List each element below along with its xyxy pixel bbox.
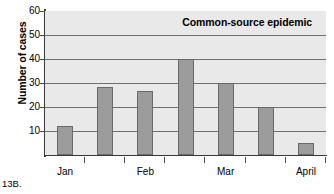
x-tick-mark [325, 157, 326, 163]
bar-chart-figure: Number of cases 102030405060 Common-sour… [0, 0, 334, 194]
y-tick-label: 10 [18, 126, 40, 136]
bar [97, 87, 113, 155]
y-tick-mark [40, 107, 45, 108]
bar [258, 107, 274, 155]
bar [298, 143, 314, 155]
x-tick-label: Mar [217, 166, 234, 177]
y-tick-label: 40 [18, 54, 40, 64]
x-tick-mark [204, 157, 205, 163]
bar [178, 59, 194, 155]
x-axis: JanFebMarApril [0, 155, 334, 194]
x-tick-label: Jan [57, 166, 73, 177]
bar [218, 83, 234, 155]
x-tick-mark [164, 157, 165, 163]
x-tick-mark [124, 157, 125, 163]
x-tick-label: April [296, 166, 316, 177]
x-tick-label: Feb [137, 166, 154, 177]
y-tick-mark [40, 11, 45, 12]
figure-caption: 13B. [2, 178, 22, 189]
y-tick-mark [40, 83, 45, 84]
y-tick-label: 50 [18, 30, 40, 40]
bar [57, 126, 73, 155]
y-tick-label: 60 [18, 6, 40, 16]
y-tick-mark [40, 35, 45, 36]
bar [137, 91, 153, 155]
y-tick-label: 30 [18, 78, 40, 88]
y-tick-label: 20 [18, 102, 40, 112]
y-tick-mark [40, 59, 45, 60]
plot-area: Common-source epidemic [45, 11, 326, 155]
chart-title: Common-source epidemic [182, 16, 312, 28]
y-tick-mark [40, 131, 45, 132]
x-tick-mark [285, 157, 286, 163]
gridline [45, 35, 326, 36]
x-tick-mark [245, 157, 246, 163]
x-tick-mark [84, 157, 85, 163]
